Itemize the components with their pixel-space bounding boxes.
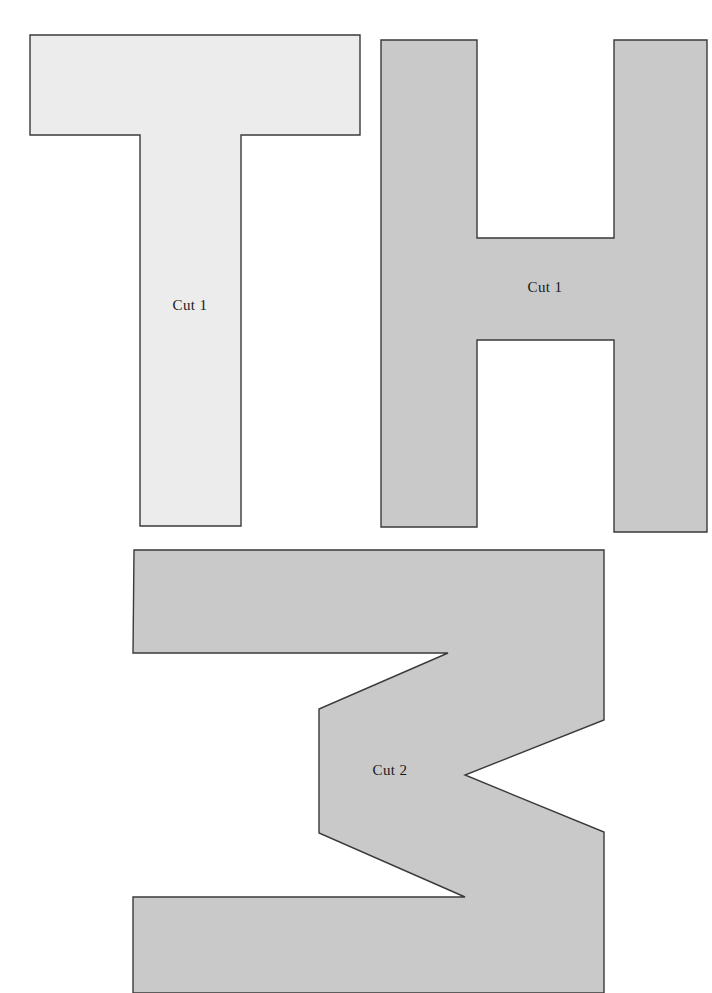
cut-shapes-diagram: Cut 1 Cut 1 Cut 2 [0,0,712,993]
t-shape-label: Cut 1 [173,297,208,313]
h-shape-label: Cut 1 [528,279,563,295]
letter-z-shape [133,550,604,993]
letter-t-shape [30,35,360,526]
z-shape-label: Cut 2 [373,762,408,778]
figure-canvas: Cut 1 Cut 1 Cut 2 [0,0,712,993]
